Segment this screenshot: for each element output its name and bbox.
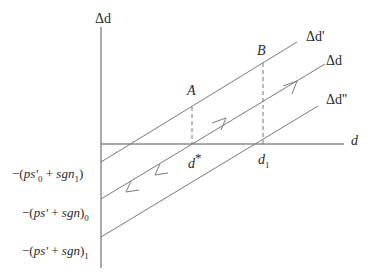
tick-base: d — [258, 152, 265, 167]
x-axis-label-text: d — [351, 133, 358, 148]
line-label-text: Δd' — [306, 29, 325, 44]
tick-sup: * — [195, 150, 202, 165]
paren-open: −( — [12, 166, 24, 181]
y-intercept-label-1: −(ps'0 + sgn1) — [12, 167, 83, 184]
y-intercept-label-2: −(ps' + sgn)0 — [22, 206, 89, 223]
post-sub: 0 — [84, 213, 89, 223]
line-label-delta-d-double-prime: Δd'' — [326, 93, 347, 107]
paren-open: −( — [22, 205, 34, 220]
point-label-text: A — [187, 83, 196, 98]
term-a: ps' — [34, 243, 48, 258]
term-a: ps' — [34, 205, 48, 220]
point-label-A: A — [187, 84, 196, 98]
line-label-delta-d-prime: Δd' — [306, 30, 325, 44]
line-label-text: Δd — [326, 53, 342, 68]
point-label-text: B — [257, 43, 266, 58]
y-intercept-label-3: −(ps' + sgn)1 — [22, 244, 89, 261]
post-sub: 1 — [84, 251, 89, 261]
tick-label-d1: d1 — [258, 153, 270, 170]
term-b: sgn — [56, 166, 74, 181]
y-axis-label-text: Δd — [95, 11, 111, 26]
term-b: sgn — [62, 243, 80, 258]
point-label-B: B — [257, 44, 266, 58]
term-b: sgn — [62, 205, 80, 220]
paren-open: −( — [22, 243, 34, 258]
tick-base: d — [188, 156, 195, 171]
tick-sub: 1 — [265, 160, 270, 170]
y-axis-label: Δd — [95, 12, 111, 26]
line-label-delta-d: Δd — [326, 54, 342, 68]
plus: + — [48, 205, 62, 220]
line-delta-d-double-prime — [101, 106, 318, 237]
paren-close: ) — [79, 166, 83, 181]
line-label-text: Δd'' — [326, 92, 347, 107]
line-delta-d — [101, 64, 325, 199]
plus: + — [43, 166, 57, 181]
x-axis-label: d — [351, 134, 358, 148]
plus: + — [48, 243, 62, 258]
tick-label-d-star: d* — [188, 151, 202, 171]
term-a: ps' — [24, 166, 38, 181]
